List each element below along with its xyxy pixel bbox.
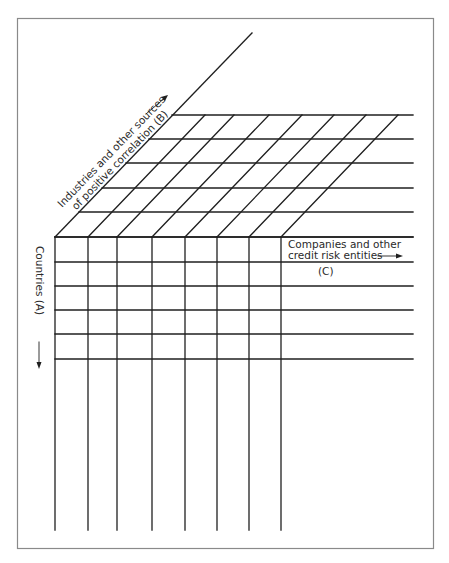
axis-b-label-line2: of positive correlation (B) [69, 108, 170, 212]
axis-c-label: Companies and other credit risk entities… [288, 238, 402, 277]
axis-a-label: Countries (A) [34, 246, 46, 315]
top-diagonal-line [281, 115, 398, 237]
figure-frame [18, 19, 434, 549]
axis-a-label-text: Countries (A) [34, 246, 46, 315]
axis-b-label: Industries and other sources of positive… [55, 93, 176, 218]
axis-c-label-line2: credit risk entities [288, 249, 383, 261]
top-diagonal-line [152, 115, 269, 237]
arrow-down-icon [37, 342, 42, 369]
axis-b-line [55, 33, 252, 237]
correlation-grid-diagram: Industries and other sources of positive… [0, 0, 449, 563]
top-diagonal-line [185, 115, 302, 237]
top-diagonal-line [217, 115, 334, 237]
axis-b-label-line1: Industries and other sources [55, 93, 168, 209]
top-diagonal-line [249, 115, 366, 237]
axis-c-tag: (C) [318, 265, 334, 277]
